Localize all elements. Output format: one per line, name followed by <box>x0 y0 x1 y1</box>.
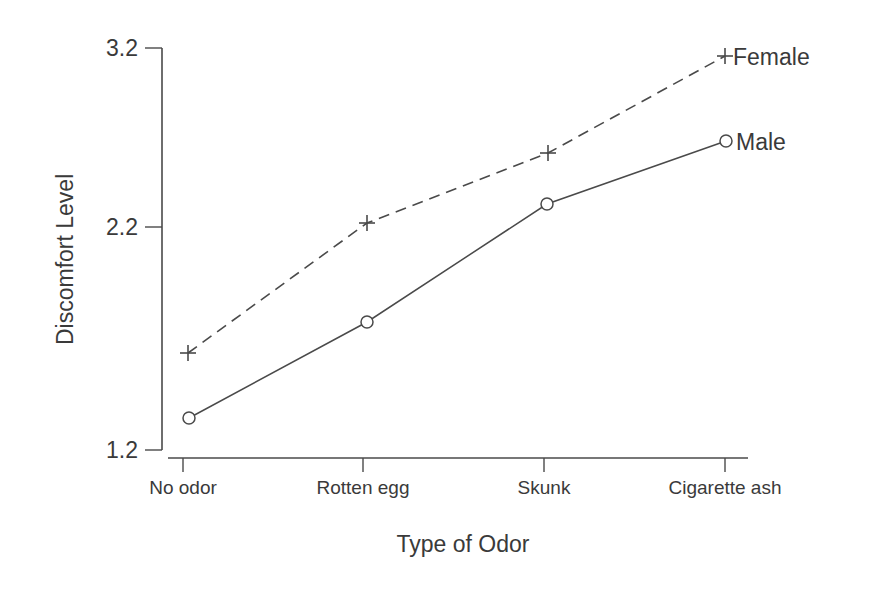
y-axis-title: Discomfort Level <box>52 174 79 345</box>
y-tick-label-1-2: 1.2 <box>58 437 138 464</box>
x-axis-title: Type of Odor <box>313 531 613 558</box>
line-chart: 3.2 2.2 1.2 No odor Rotten egg Skunk Cig… <box>0 0 886 596</box>
marker-male-no-odor <box>183 412 195 424</box>
series-line-male <box>189 141 726 418</box>
marker-female-rotten-egg <box>359 215 375 231</box>
marker-male-cigarette-ash <box>720 135 732 147</box>
x-tick-label-skunk: Skunk <box>474 477 614 499</box>
chart-canvas <box>0 0 886 596</box>
x-tick-label-rotten-egg: Rotten egg <box>293 477 433 499</box>
marker-female-cigarette-ash <box>717 48 733 64</box>
x-tick-label-no-odor: No odor <box>113 477 253 499</box>
marker-female-no-odor <box>180 345 196 361</box>
legend-label-male: Male <box>736 129 786 156</box>
series-line-female <box>188 56 725 353</box>
legend-label-female: Female <box>733 44 810 71</box>
y-tick-label-3-2: 3.2 <box>58 35 138 62</box>
marker-female-skunk <box>540 145 556 161</box>
marker-male-rotten-egg <box>361 316 373 328</box>
x-tick-label-cigarette-ash: Cigarette ash <box>655 477 795 499</box>
marker-male-skunk <box>541 198 553 210</box>
